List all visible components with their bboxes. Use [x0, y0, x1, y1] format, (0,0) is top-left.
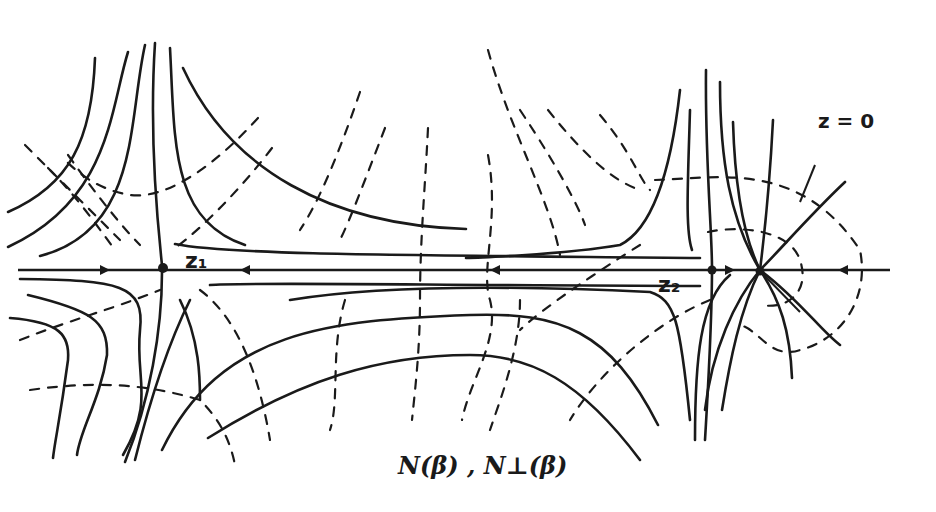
label-z2: z₂	[658, 272, 680, 297]
caption: N(β) , N⊥(β)	[397, 451, 567, 480]
solid-trajectories-z1	[8, 43, 700, 462]
dashed-trajectories	[20, 50, 862, 465]
flow-diagram: z₁ z₂ z = 0 N(β) , N⊥(β)	[0, 0, 936, 512]
point-z1	[158, 263, 168, 273]
label-z1: z₁	[185, 248, 207, 273]
point-z2	[708, 266, 717, 275]
solid-trajectories-z2	[466, 70, 845, 440]
label-z0: z = 0	[818, 109, 874, 133]
solid-trajectories-lower	[162, 288, 690, 460]
z0-leader-line	[800, 165, 815, 202]
